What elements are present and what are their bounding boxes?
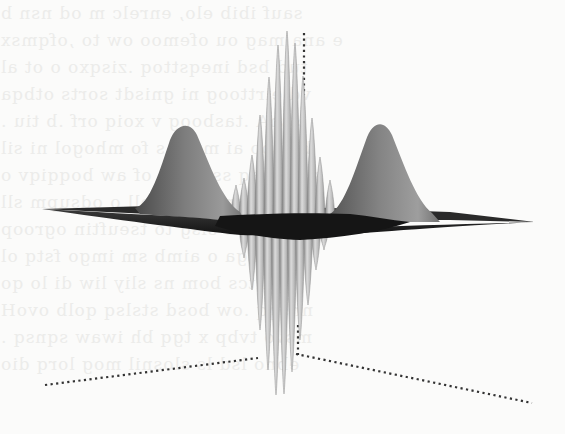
lower-spikes (239, 226, 329, 395)
upper-spike (315, 157, 325, 223)
upper-spikes (231, 31, 335, 223)
left-axis (45, 358, 258, 385)
upper-spike (264, 77, 274, 221)
upper-spike (273, 45, 283, 221)
upper-spike (255, 115, 265, 221)
lower-spike (295, 226, 305, 340)
wave-packet-surface-plot (0, 0, 565, 434)
left-gaussian-hump (135, 126, 245, 222)
figure-page: sauf ibib elo, enrelc m od nsn b e ana m… (0, 0, 565, 434)
right-axis (296, 354, 532, 403)
upper-spike (298, 76, 308, 222)
right-gaussian-hump (330, 124, 440, 222)
